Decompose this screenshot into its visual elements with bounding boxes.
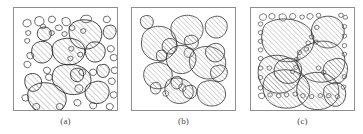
hatched-grain xyxy=(156,50,167,62)
void-particle xyxy=(269,13,275,19)
panel-c-label: (c) xyxy=(250,115,355,127)
void-particle xyxy=(339,13,344,17)
hatched-grain xyxy=(205,16,227,38)
void-particle xyxy=(106,103,113,110)
void-particle xyxy=(26,31,31,36)
panel-b-frame xyxy=(131,7,236,111)
void-particle xyxy=(62,18,71,26)
void-particle xyxy=(48,16,55,23)
void-particle xyxy=(45,74,52,81)
panel-a-frame xyxy=(13,7,118,111)
void-particle xyxy=(107,45,114,52)
hatched-grain xyxy=(140,15,153,28)
hatched-grain xyxy=(103,25,116,39)
figure-root: (a) (b) (c) xyxy=(0,0,363,134)
void-particle xyxy=(290,13,296,19)
hatched-grain xyxy=(85,81,109,103)
void-particle xyxy=(258,86,263,90)
hatched-grain xyxy=(71,68,84,82)
panel-a-label: (a) xyxy=(13,115,118,127)
void-particle xyxy=(55,25,62,31)
void-particle xyxy=(24,61,31,68)
void-particle xyxy=(342,43,347,47)
void-particle xyxy=(259,14,266,21)
hatched-grain xyxy=(97,64,109,77)
hatched-grain xyxy=(171,76,182,89)
void-particle xyxy=(307,13,313,19)
panel-a-microstructure xyxy=(14,8,117,110)
hatched-grain xyxy=(323,58,347,84)
void-particle xyxy=(62,32,67,37)
void-particle xyxy=(110,92,117,99)
void-particle xyxy=(300,15,305,19)
void-particle xyxy=(23,19,32,27)
void-particle xyxy=(90,69,97,76)
void-particle xyxy=(103,16,110,23)
void-particle xyxy=(43,67,50,74)
void-particle xyxy=(343,15,348,19)
void-particle xyxy=(110,54,117,61)
hatched-grain xyxy=(197,81,225,106)
panel-c: (c) xyxy=(250,7,355,111)
hatched-grain xyxy=(52,38,85,65)
panel-b: (b) xyxy=(131,7,236,111)
hatched-grain xyxy=(150,82,161,94)
void-particle xyxy=(258,22,263,26)
void-particle xyxy=(258,48,263,52)
hatched-grain xyxy=(206,43,225,62)
void-particle xyxy=(25,38,30,43)
panel-b-microstructure xyxy=(132,8,235,110)
panel-c-frame xyxy=(250,7,355,111)
void-particle xyxy=(74,99,81,106)
hatched-grain xyxy=(85,42,105,62)
panel-b-label: (b) xyxy=(131,115,236,127)
hatched-grain xyxy=(32,41,53,63)
hatched-grain xyxy=(274,58,302,83)
void-particle xyxy=(111,67,117,74)
hatched-grain xyxy=(37,27,51,41)
void-particle xyxy=(316,13,321,17)
hatched-grain xyxy=(210,65,227,81)
void-particle xyxy=(108,78,115,85)
panel-a: (a) xyxy=(13,7,118,111)
hatched-grain xyxy=(183,85,197,98)
panel-c-microstructure xyxy=(251,8,354,110)
